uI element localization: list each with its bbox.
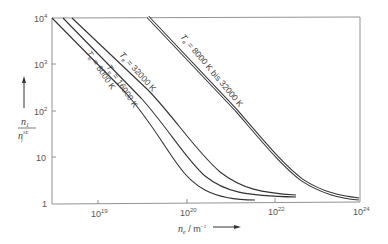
- y-tick-label-1: 1: [42, 199, 47, 209]
- x-axis-title: ne / m−3: [178, 223, 241, 235]
- arrow-right-icon: [234, 225, 241, 229]
- x-tick-label-1e24: 1024: [353, 206, 370, 217]
- plot-frame: [52, 17, 360, 204]
- x-tick-labels: 1019 1020 1022 1024: [91, 206, 370, 219]
- y-tick-label-1000: 103: [34, 59, 48, 70]
- x-tick-label-1e20: 1020: [180, 207, 197, 218]
- y-tick-label-100: 102: [34, 106, 48, 117]
- y-tick-labels: 104 103 102 10 1: [34, 13, 48, 209]
- svg-text:ne / m−3: ne / m−3: [178, 223, 206, 235]
- curve-16000k: [63, 18, 296, 197]
- x-tick-label-1e19: 1019: [91, 208, 108, 219]
- label-8000k-bis-32000k: Te = 8000 K bis 32000 K: [178, 32, 246, 110]
- y-ticks: [52, 64, 56, 157]
- curve-labels: Te = 8000 K Te = 16000 K Te = 32000 K Te…: [84, 32, 246, 110]
- top-border: [52, 17, 360, 18]
- curve-8000k-bis-32000k: [148, 17, 359, 199]
- svg-text:n1: n1: [21, 116, 29, 128]
- curves: [52, 17, 359, 200]
- y-tick-label-10000: 104: [34, 13, 48, 24]
- chart: 104 103 102 10 1 1019 1020 1022 1024 n1 …: [0, 0, 388, 244]
- svg-text:nSE1: nSE1: [18, 130, 29, 143]
- arrow-up-icon: [22, 76, 26, 83]
- curve-8000k: [52, 18, 255, 200]
- y-tick-label-10: 10: [36, 153, 46, 163]
- x-tick-label-1e22: 1022: [268, 206, 285, 217]
